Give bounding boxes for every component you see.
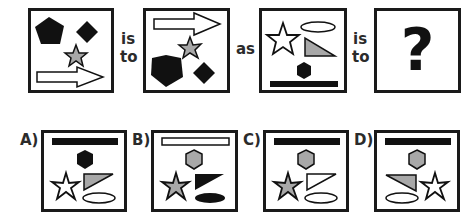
black-bar-icon (274, 138, 340, 145)
white-triangle-icon (307, 174, 336, 190)
panel-3-shapes (262, 11, 344, 90)
connector-is-2: is (353, 32, 367, 47)
connector-to: to (120, 50, 137, 65)
white-arrow-icon (154, 13, 220, 35)
black-diamond-icon (193, 62, 215, 84)
panel-1-shapes (31, 11, 111, 90)
black-bar-icon (270, 81, 338, 87)
option-b-label: B) (132, 133, 150, 148)
white-ellipse-icon (305, 193, 337, 203)
question-panel-2 (143, 8, 230, 93)
question-panel-4-unknown: ? (374, 8, 461, 93)
option-c-shapes (266, 133, 346, 209)
connector-as: as (236, 42, 255, 57)
black-pentagon-icon (35, 17, 64, 44)
option-a-label: A) (20, 133, 38, 148)
gray-star-icon (65, 45, 87, 66)
panel-2-shapes (146, 11, 227, 90)
gray-star-icon (274, 173, 301, 199)
white-star-icon (421, 173, 448, 199)
gray-hexagon-icon (186, 150, 202, 169)
question-panel-3 (259, 8, 347, 93)
option-c-label: C) (243, 133, 261, 148)
black-hexagon-icon (297, 62, 311, 79)
option-d-label: D) (354, 133, 373, 148)
white-ellipse-icon (83, 193, 115, 203)
black-bar-icon (52, 138, 118, 145)
white-bar-icon (162, 138, 229, 145)
gray-triangle-icon (386, 175, 416, 191)
gray-hexagon-icon (409, 150, 425, 169)
option-c[interactable] (263, 130, 349, 212)
option-d-shapes (377, 133, 457, 209)
white-ellipse-icon (386, 193, 418, 203)
option-d[interactable] (374, 130, 460, 212)
black-ellipse-icon (195, 193, 225, 203)
option-b[interactable] (151, 130, 238, 212)
option-a[interactable] (41, 130, 127, 212)
gray-star-icon (179, 37, 201, 58)
black-triangle-icon (195, 174, 224, 190)
black-hexagon-icon (77, 150, 93, 169)
option-b-shapes (154, 133, 235, 209)
gray-triangle-icon (305, 38, 335, 56)
option-a-shapes (44, 133, 124, 209)
black-pentagon-icon (151, 55, 183, 87)
gray-hexagon-icon (298, 150, 314, 169)
black-bar-icon (385, 138, 451, 145)
question-panel-1 (28, 8, 114, 93)
gray-star-icon (162, 173, 189, 199)
connector-is: is (121, 32, 135, 47)
white-star-icon (52, 173, 79, 199)
white-ellipse-icon (301, 22, 335, 32)
black-diamond-icon (76, 21, 98, 43)
white-arrow-icon (37, 67, 103, 87)
white-star-icon (267, 23, 299, 54)
question-mark-icon: ? (377, 21, 458, 79)
gray-triangle-icon (84, 174, 113, 190)
connector-to-2: to (352, 50, 369, 65)
